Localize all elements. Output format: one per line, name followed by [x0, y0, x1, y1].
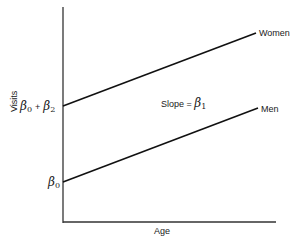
women-label: Women	[259, 28, 290, 38]
regression-diagram: Women Men Slope = β1 β0+β2 β0 Visits Age	[0, 0, 292, 243]
slope-annotation: Slope = β1	[161, 96, 206, 111]
women-line	[63, 33, 256, 106]
intercept-men-label: β0	[47, 175, 60, 190]
intercept-women-label: β0+β2	[19, 99, 55, 114]
y-axis-title: Visits	[9, 90, 19, 112]
men-label: Men	[261, 104, 279, 114]
men-line	[63, 108, 258, 182]
x-axis-title: Age	[154, 226, 170, 236]
